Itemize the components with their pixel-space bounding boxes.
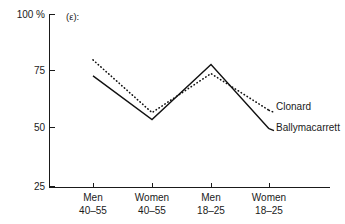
x-tick-label-3-line1: Women — [252, 192, 286, 203]
panel-label: (ε): — [66, 11, 79, 22]
x-axis-tick-labels: Men 40–55 Women 40–55 Men 18–25 Women 18… — [79, 192, 286, 216]
x-tick-label-3-line2: 18–25 — [255, 205, 283, 216]
series-label-clonard: Clonard — [276, 101, 311, 112]
series-label-ballymacarrett: Ballymacarrett — [276, 122, 340, 133]
y-tick-label-50: 50 — [34, 122, 46, 133]
x-tick-label-0-line1: Men — [83, 192, 102, 203]
y-axis-ticks — [50, 14, 55, 186]
x-tick-label-1-line1: Women — [135, 192, 169, 203]
series-line-ballymacarrett — [93, 65, 269, 129]
x-tick-label-0-line2: 40–55 — [79, 205, 107, 216]
leader-line-ballymacarrett — [269, 129, 274, 131]
x-tick-label-2-line2: 18–25 — [197, 205, 225, 216]
y-tick-label-100: 100 % — [17, 9, 45, 20]
chart-figure: 100 % 75 50 25 (ε): Men 40–55 Women 40–5… — [0, 0, 345, 224]
x-tick-label-2-line1: Men — [201, 192, 220, 203]
y-tick-label-75: 75 — [34, 65, 46, 76]
series-line-clonard — [93, 60, 269, 113]
line-chart-svg: 100 % 75 50 25 (ε): Men 40–55 Women 40–5… — [0, 0, 345, 224]
y-tick-label-25: 25 — [34, 181, 46, 192]
x-tick-label-1-line2: 40–55 — [138, 205, 166, 216]
x-axis-ticks — [93, 183, 269, 188]
leader-line-clonard — [269, 110, 274, 112]
